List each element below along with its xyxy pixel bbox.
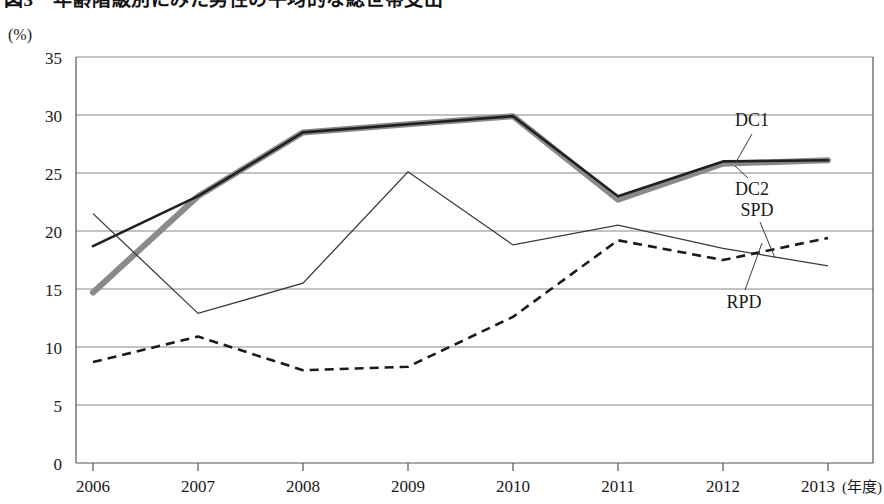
leader-line-dc2 [735, 166, 748, 178]
x-tick-2012: 2012 [706, 477, 740, 496]
series-label-spd: SPD [740, 200, 773, 220]
x-tick-2011: 2011 [601, 477, 634, 496]
y-tick-0: 0 [54, 455, 63, 474]
x-tick-2006: 2006 [76, 477, 110, 496]
x-axis-tick-labels: 2006 2007 2008 2009 2010 2011 2012 2013 … [76, 477, 882, 496]
series-line-dc1 [93, 116, 828, 246]
x-tick-2007: 2007 [181, 477, 216, 496]
series-annotations: DC1 DC2 SPD RPD [726, 110, 775, 312]
leader-line-rpd [745, 243, 762, 290]
x-tick-2010: 2010 [496, 477, 530, 496]
y-tick-25: 25 [45, 165, 62, 184]
y-tick-35: 35 [45, 49, 62, 68]
chart-figure: 図3 年齢階級別にみた男性の平均的な総世帯支出 (%) 35 30 25 20 … [0, 0, 884, 504]
y-tick-20: 20 [45, 223, 62, 242]
series-label-rpd: RPD [726, 292, 761, 312]
y-tick-15: 15 [45, 281, 62, 300]
y-axis-tick-labels: 35 30 25 20 15 10 5 0 [45, 49, 62, 474]
series-label-dc1: DC1 [735, 110, 769, 130]
x-tick-2009: 2009 [391, 477, 425, 496]
x-tick-2013: 2013 [801, 477, 835, 496]
series-line-dc2 [93, 116, 828, 292]
series-label-dc2: DC2 [735, 179, 769, 199]
line-chart-plot: 35 30 25 20 15 10 5 0 2006 2007 2008 200… [0, 0, 884, 504]
leader-line-dc1 [736, 134, 752, 162]
series-line-rpd [93, 238, 828, 370]
y-tick-5: 5 [54, 397, 63, 416]
y-tick-30: 30 [45, 107, 62, 126]
y-tick-10: 10 [45, 339, 62, 358]
leader-line-spd [760, 222, 775, 258]
x-axis-unit-label: (年度) [842, 479, 882, 496]
x-tick-2008: 2008 [286, 477, 320, 496]
x-axis-tickmarks [93, 463, 828, 471]
